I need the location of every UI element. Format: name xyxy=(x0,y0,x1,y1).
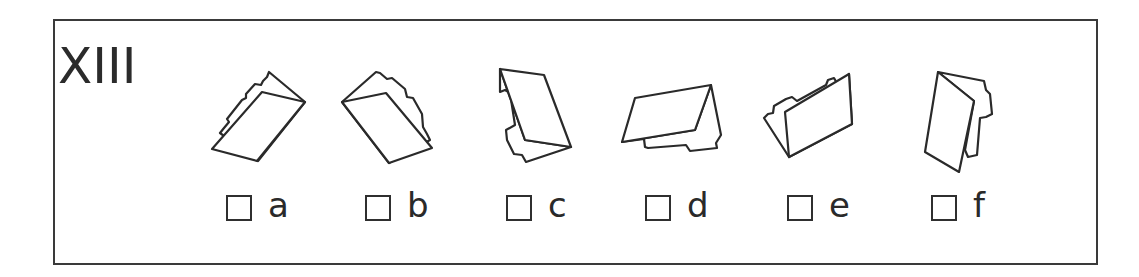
option-label-a: a xyxy=(268,185,289,225)
question-number: XIII xyxy=(58,36,137,96)
option-a[interactable]: a xyxy=(226,188,289,228)
option-f[interactable]: f xyxy=(931,188,985,228)
checkbox-c[interactable] xyxy=(506,195,532,221)
option-e[interactable]: e xyxy=(787,188,850,228)
checkbox-d[interactable] xyxy=(645,195,671,221)
option-label-c: c xyxy=(548,185,567,225)
checkbox-a[interactable] xyxy=(226,195,252,221)
question-frame xyxy=(53,19,1098,265)
checkbox-e[interactable] xyxy=(787,195,813,221)
option-b[interactable]: b xyxy=(365,188,429,228)
checkbox-b[interactable] xyxy=(365,195,391,221)
checkbox-f[interactable] xyxy=(931,195,957,221)
option-label-f: f xyxy=(973,185,985,225)
option-label-b: b xyxy=(407,185,429,225)
option-label-d: d xyxy=(687,185,709,225)
option-c[interactable]: c xyxy=(506,188,567,228)
option-d[interactable]: d xyxy=(645,188,709,228)
option-label-e: e xyxy=(829,185,850,225)
